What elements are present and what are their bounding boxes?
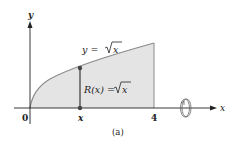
x-axis-arrow-icon xyxy=(210,106,217,111)
y-axis-label: y xyxy=(27,10,34,20)
solid-of-revolution-diagram: y x 0 x 4 y = x R(x) = x (a) xyxy=(0,0,228,146)
radius-label-lhs: R(x) = xyxy=(83,84,115,95)
y-axis-arrow-icon xyxy=(28,21,33,28)
radius-top-point xyxy=(78,66,82,70)
curve-equation-rhs: x xyxy=(113,44,119,55)
curve-equation-lhs: y = xyxy=(81,44,98,55)
radius-base-point xyxy=(78,106,82,110)
four-tick-label: 4 xyxy=(151,113,157,123)
x-axis-label: x xyxy=(220,103,225,113)
origin-label: 0 xyxy=(22,113,28,123)
x-tick-label: x xyxy=(77,113,84,123)
radius-label-rhs: x xyxy=(122,84,128,95)
figure-caption: (a) xyxy=(112,127,124,137)
